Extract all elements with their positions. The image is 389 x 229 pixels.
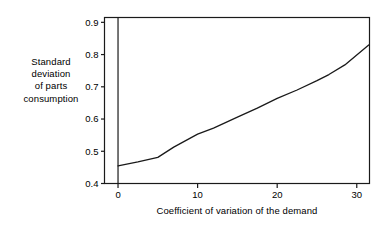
svg-text:20: 20 xyxy=(272,189,283,200)
y-axis-label-line-3: of parts xyxy=(8,80,94,92)
x-axis-ticks: 0102030 xyxy=(115,184,362,201)
svg-text:0.9: 0.9 xyxy=(85,17,98,28)
plot-frame xyxy=(105,18,370,184)
svg-text:0.5: 0.5 xyxy=(85,146,98,157)
x-axis-label: Coefficient of variation of the demand xyxy=(104,205,370,216)
y-axis-label-line-2: deviation xyxy=(8,68,94,80)
data-series-line xyxy=(118,45,369,166)
svg-text:0.4: 0.4 xyxy=(85,178,98,189)
svg-text:0: 0 xyxy=(115,189,120,200)
chart-plot-area: 0.40.50.60.70.80.9 0102030 xyxy=(0,0,389,229)
svg-text:0.6: 0.6 xyxy=(85,113,98,124)
svg-text:30: 30 xyxy=(351,189,362,200)
y-axis-label-line-1: Standard xyxy=(8,56,94,68)
svg-text:10: 10 xyxy=(192,189,203,200)
chart-figure: 0.40.50.60.70.80.9 0102030 Standard devi… xyxy=(0,0,389,229)
y-axis-label-line-4: consumption xyxy=(8,93,94,105)
y-axis-label: Standard deviation of parts consumption xyxy=(8,56,94,105)
